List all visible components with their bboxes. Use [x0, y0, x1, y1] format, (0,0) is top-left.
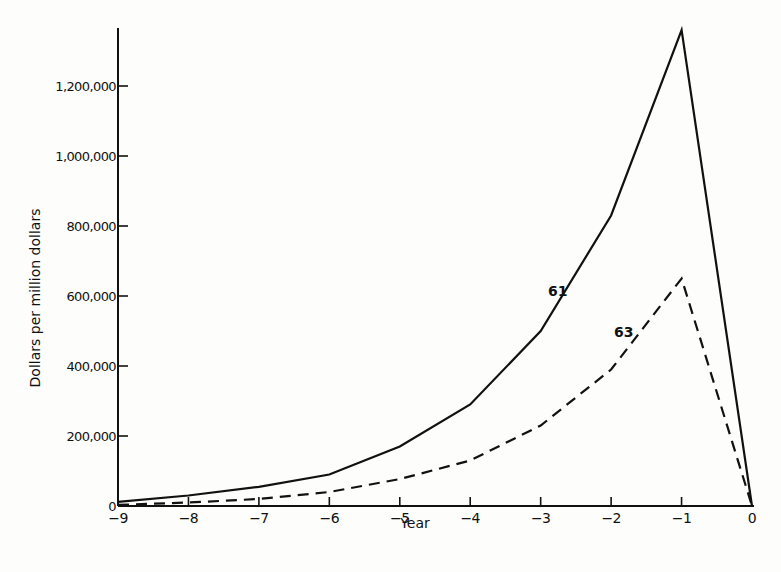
- x-tick-label: −1: [672, 510, 691, 526]
- x-axis-ticks: −9−8−7−6−5−4−3−2−10: [108, 497, 756, 526]
- series-label-61: 61: [548, 283, 567, 299]
- series-label-63: 63: [614, 324, 633, 340]
- x-tick-label: −4: [460, 510, 480, 526]
- y-tick-label: 600,000: [66, 289, 116, 304]
- y-tick-label: 400,000: [66, 359, 116, 374]
- x-tick-label: −2: [601, 510, 620, 526]
- x-tick-label: −6: [320, 510, 340, 526]
- series-line-63: [118, 279, 752, 507]
- x-tick-label: −7: [249, 510, 268, 526]
- y-tick-label: 200,000: [66, 429, 116, 444]
- x-tick-label: −8: [179, 510, 198, 526]
- y-tick-label: 1,200,000: [55, 79, 116, 94]
- y-axis-label: Dollars per million dollars: [27, 209, 43, 388]
- axes: [118, 28, 754, 506]
- line-chart: 0200,000400,000600,000800,0001,000,0001,…: [0, 0, 781, 572]
- series-lines: 6163: [118, 30, 752, 506]
- x-axis-label: Year: [399, 515, 430, 531]
- series-line-61: [118, 30, 752, 506]
- y-tick-label: 1,000,000: [55, 149, 116, 164]
- y-tick-label: 800,000: [66, 219, 116, 234]
- x-tick-label: −3: [531, 510, 550, 526]
- x-tick-label: −9: [108, 510, 127, 526]
- x-tick-label: 0: [748, 510, 756, 526]
